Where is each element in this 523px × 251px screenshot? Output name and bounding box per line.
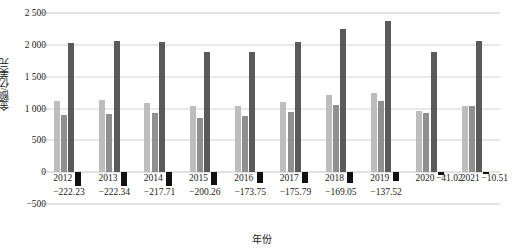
bar xyxy=(242,116,248,172)
bar xyxy=(68,43,74,172)
y-tick-label: 2 500 xyxy=(0,8,46,18)
bar xyxy=(99,100,105,173)
bar xyxy=(423,113,429,172)
bar xyxy=(462,106,468,172)
x-tick-label: 2015 xyxy=(189,173,208,183)
negative-value-label: −222.34 xyxy=(99,187,130,197)
y-tick-label: 0 xyxy=(0,167,46,177)
bar xyxy=(144,103,150,172)
y-tick-mark xyxy=(42,172,47,173)
bar xyxy=(393,172,399,181)
bar xyxy=(302,172,308,183)
bar xyxy=(61,115,67,172)
y-tick-label: 1 000 xyxy=(0,104,46,114)
y-tick-label: −500 xyxy=(0,199,46,209)
bar xyxy=(166,172,172,186)
x-tick-label: 2013 xyxy=(98,173,117,183)
negative-value-label: −217.71 xyxy=(144,187,175,197)
negative-value-label: −169.05 xyxy=(325,187,356,197)
bar xyxy=(152,113,158,173)
bar-chart: 金额/亿美元 年份 2 5002 0001 5001 0005000−500 2… xyxy=(0,0,523,251)
bar xyxy=(106,114,112,173)
x-tick-label: 2014 xyxy=(144,173,163,183)
y-tick-label: 2 000 xyxy=(0,40,46,50)
bar xyxy=(159,42,165,173)
gridline xyxy=(47,13,500,14)
x-tick-label: 2017 xyxy=(280,173,299,183)
bar xyxy=(211,172,217,185)
y-tick-mark xyxy=(42,140,47,141)
bar xyxy=(431,52,437,172)
negative-value-label: −200.26 xyxy=(189,187,220,197)
y-tick-label: 500 xyxy=(0,135,46,145)
bar xyxy=(121,172,127,186)
bar xyxy=(288,112,294,172)
x-tick-label: 2016 xyxy=(234,173,253,183)
bar xyxy=(340,29,346,173)
bar xyxy=(190,106,196,173)
bar xyxy=(416,111,422,172)
negative-value-label: −137.52 xyxy=(370,187,401,197)
bar xyxy=(235,106,241,172)
bar xyxy=(54,101,60,172)
bar xyxy=(469,106,475,172)
y-tick-label: 1 500 xyxy=(0,72,46,82)
x-tick-label: 2019 xyxy=(370,173,389,183)
negative-value-label: −41.02 xyxy=(436,173,463,183)
negative-value-label: −222.23 xyxy=(53,187,84,197)
bar xyxy=(333,105,339,172)
gridline xyxy=(47,204,500,205)
bar xyxy=(371,93,377,172)
bar xyxy=(347,172,353,183)
x-tick-label: 2021 xyxy=(461,173,480,183)
x-tick-label: 2018 xyxy=(325,173,344,183)
y-tick-mark xyxy=(42,204,47,205)
bar xyxy=(249,52,255,172)
y-tick-mark xyxy=(42,44,47,45)
y-tick-mark xyxy=(42,76,47,77)
negative-value-label: −10.51 xyxy=(481,173,508,183)
bar xyxy=(280,102,286,172)
bar xyxy=(75,172,81,186)
x-tick-label: 2012 xyxy=(53,173,72,183)
negative-value-label: −173.75 xyxy=(234,187,265,197)
bar xyxy=(476,41,482,172)
x-tick-label: 2020 xyxy=(416,173,435,183)
bar xyxy=(378,101,384,173)
bar xyxy=(326,95,332,172)
bar xyxy=(197,118,203,172)
y-tick-mark xyxy=(42,13,47,14)
bar xyxy=(114,41,120,172)
bar xyxy=(295,42,301,172)
bar xyxy=(257,172,263,183)
y-tick-mark xyxy=(42,108,47,109)
bar xyxy=(204,52,210,172)
x-axis-title: 年份 xyxy=(0,231,523,246)
negative-value-label: −175.79 xyxy=(280,187,311,197)
bar xyxy=(385,21,391,172)
